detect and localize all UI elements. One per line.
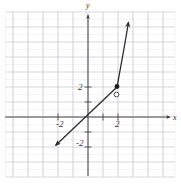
grid-minor [6,12,176,177]
y-tick-neg2: -2 [76,139,84,148]
closed-endpoint-dot [115,84,120,89]
x-tick-neg2: -2 [56,120,64,129]
x-tick-2: 2 [115,120,120,129]
y-tick-2: 2 [78,83,83,92]
graph-figure: y x 2 -2 2 -2 [0,0,181,192]
coordinate-plane [0,0,181,192]
curve-steep-branch [117,22,129,87]
curve-linear-branch [56,87,118,146]
y-axis-label: y [86,2,90,10]
x-axis-label: x [173,114,177,122]
open-endpoint-dot [114,92,119,97]
